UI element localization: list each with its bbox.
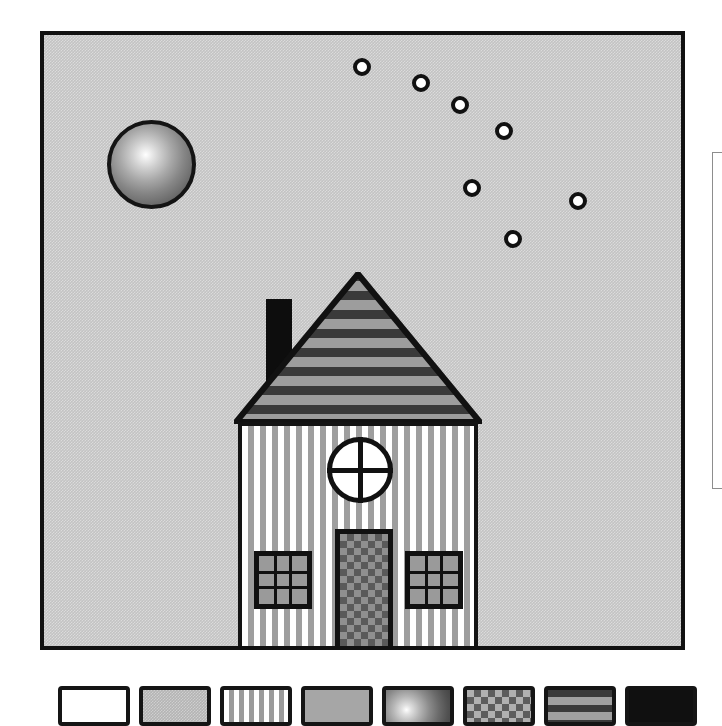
right-panel-edge[interactable]: [712, 152, 722, 489]
window-pane: [445, 591, 458, 604]
window-pane: [276, 591, 289, 604]
window-pane: [445, 556, 458, 569]
window-pane: [294, 556, 307, 569]
window-pane: [259, 573, 272, 586]
window-pane: [427, 591, 440, 604]
window-right[interactable]: [405, 551, 463, 609]
pattern-palette[interactable]: [0, 686, 722, 718]
swatch-checker[interactable]: [463, 686, 535, 726]
window-pane: [427, 556, 440, 569]
house-group[interactable]: [44, 35, 685, 650]
swatch-mid-gray[interactable]: [301, 686, 373, 726]
window-pane: [294, 573, 307, 586]
window-pane: [276, 573, 289, 586]
roof-stripes: [234, 272, 482, 424]
window-left[interactable]: [254, 551, 312, 609]
window-pane: [259, 591, 272, 604]
swatch-gradient[interactable]: [382, 686, 454, 726]
window-pane: [259, 556, 272, 569]
swatch-light-gray[interactable]: [139, 686, 211, 726]
window-pane: [410, 556, 423, 569]
swatch-vstripes[interactable]: [220, 686, 292, 726]
drawing-canvas[interactable]: [40, 31, 685, 650]
window-pane: [427, 573, 440, 586]
window-pane: [410, 591, 423, 604]
swatch-hstripes[interactable]: [544, 686, 616, 726]
window-pane: [294, 591, 307, 604]
window-pane: [410, 573, 423, 586]
front-door[interactable]: [335, 529, 393, 650]
swatch-solid-white[interactable]: [58, 686, 130, 726]
window-pane: [445, 573, 458, 586]
swatch-black[interactable]: [625, 686, 697, 726]
round-window[interactable]: [327, 437, 393, 503]
roof[interactable]: [234, 272, 482, 424]
window-pane: [276, 556, 289, 569]
